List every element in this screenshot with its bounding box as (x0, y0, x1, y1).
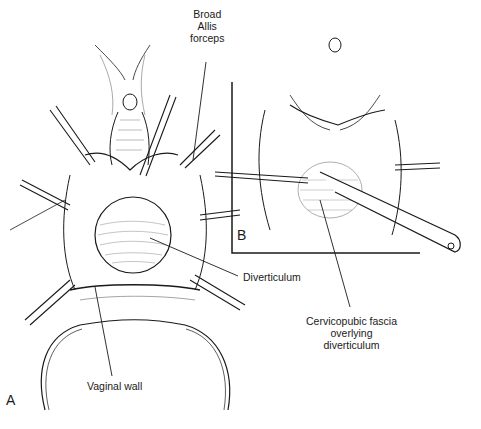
broad-allis-forceps-label: Broad Allis forceps (190, 8, 224, 44)
vaginal-wall-label: Vaginal wall (87, 380, 142, 392)
surgical-illustration (0, 0, 481, 429)
cervicopubic-fascia-label: Cervicopubic fascia overlying diverticul… (306, 315, 397, 351)
panel-letter-b: B (237, 227, 246, 243)
panel-letter-a: A (6, 392, 15, 408)
panel-b-drawing (215, 38, 460, 253)
panel-a-drawing (10, 45, 245, 410)
diverticulum-label: Diverticulum (243, 271, 301, 283)
